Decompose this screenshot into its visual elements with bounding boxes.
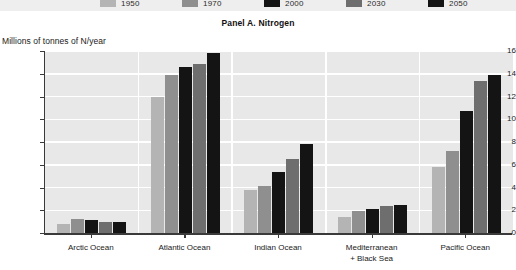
- bar-mediterranean-2050[interactable]: [394, 205, 407, 233]
- bar-group-bars: [326, 51, 420, 233]
- y-tick-label-4: 4: [478, 183, 516, 192]
- x-tick-1: [184, 233, 185, 238]
- legend-label-2050: 2050: [449, 0, 468, 8]
- legend-item-2050: 2050: [428, 0, 510, 8]
- y-tick-mark-16: [40, 51, 44, 52]
- y-tick-mark-12: [40, 97, 44, 98]
- bar-arctic-ocean-1950[interactable]: [57, 224, 70, 233]
- bar-indian-ocean-2050[interactable]: [300, 144, 313, 233]
- chart-legend: 1950 1970 2000 2030 2050: [0, 0, 516, 12]
- legend-item-2000: 2000: [264, 0, 346, 8]
- bar-pacific-ocean-1950[interactable]: [432, 167, 445, 233]
- legend-item-1950: 1950: [100, 0, 182, 8]
- legend-swatch-1950: [100, 0, 116, 7]
- y-tick-label-12: 12: [478, 92, 516, 101]
- y-tick-mark-8: [40, 142, 44, 143]
- bar-arctic-ocean-1970[interactable]: [71, 219, 84, 233]
- bar-mediterranean-2030[interactable]: [380, 206, 393, 233]
- bar-pacific-ocean-2000[interactable]: [460, 111, 473, 233]
- group-separator-1: [138, 51, 140, 233]
- x-tick-2: [278, 233, 279, 238]
- y-tick-label-14: 14: [478, 69, 516, 78]
- y-axis-caption: Millions of tonnes of N/year: [2, 36, 106, 46]
- y-tick-label-10: 10: [478, 114, 516, 123]
- y-tick-mark-14: [40, 74, 44, 75]
- bar-indian-ocean-1950[interactable]: [244, 190, 257, 233]
- y-tick-label-8: 8: [478, 137, 516, 146]
- x-axis-label-4: Pacific Ocean: [418, 242, 512, 253]
- legend-item-2030: 2030: [346, 0, 428, 8]
- bar-group-bars: [139, 51, 233, 233]
- legend-swatch-1970: [182, 0, 198, 7]
- legend-item-1970: 1970: [182, 0, 264, 8]
- y-tick-label-6: 6: [478, 160, 516, 169]
- group-separator-4: [419, 51, 421, 233]
- x-axis-label-0: Arctic Ocean: [44, 242, 138, 253]
- x-tick-4: [465, 233, 466, 238]
- legend-swatch-2000: [264, 0, 280, 7]
- legend-label-2000: 2000: [285, 0, 304, 8]
- group-separator-2: [231, 51, 233, 233]
- legend-label-1970: 1970: [203, 0, 222, 8]
- x-axis-label-3: Mediterranean + Black Sea: [325, 242, 419, 264]
- bar-arctic-ocean-2030[interactable]: [99, 222, 112, 233]
- group-separator-3: [325, 51, 327, 233]
- bar-group-2: [232, 51, 326, 233]
- chart-plot-wrapper: 0246810121416Arctic OceanAtlantic OceanI…: [0, 48, 516, 270]
- y-tick-label-0: 0: [478, 228, 516, 237]
- y-tick-mark-4: [40, 188, 44, 189]
- bar-atlantic-ocean-2030[interactable]: [193, 64, 206, 233]
- bar-group-1: [139, 51, 233, 233]
- legend-swatch-2030: [346, 0, 362, 7]
- y-tick-mark-2: [40, 210, 44, 211]
- bar-mediterranean-2000[interactable]: [366, 209, 379, 233]
- legend-swatch-2050: [428, 0, 444, 7]
- y-tick-mark-0: [40, 233, 44, 234]
- bar-group-bars: [232, 51, 326, 233]
- legend-label-2030: 2030: [367, 0, 386, 8]
- bar-atlantic-ocean-1950[interactable]: [151, 97, 164, 234]
- bar-group-bars: [45, 51, 139, 233]
- y-tick-label-2: 2: [478, 205, 516, 214]
- bar-pacific-ocean-1970[interactable]: [446, 151, 459, 233]
- bar-atlantic-ocean-2050[interactable]: [207, 53, 220, 233]
- panel-title: Panel A. Nitrogen: [0, 18, 516, 28]
- bar-arctic-ocean-2000[interactable]: [85, 220, 98, 233]
- x-tick-3: [372, 233, 373, 238]
- bar-mediterranean-1950[interactable]: [338, 217, 351, 233]
- bar-indian-ocean-2000[interactable]: [272, 172, 285, 233]
- bar-group-0: [45, 51, 139, 233]
- bar-indian-ocean-1970[interactable]: [258, 186, 271, 233]
- bar-indian-ocean-2030[interactable]: [286, 159, 299, 233]
- chart-plot-area: [44, 51, 513, 233]
- x-axis-label-1: Atlantic Ocean: [138, 242, 232, 253]
- y-tick-label-16: 16: [478, 46, 516, 55]
- legend-items-row: 1950 1970 2000 2030 2050: [0, 0, 516, 11]
- bar-arctic-ocean-2050[interactable]: [113, 222, 126, 233]
- x-axis-label-2: Indian Ocean: [231, 242, 325, 253]
- bar-group-3: [326, 51, 420, 233]
- bar-atlantic-ocean-1970[interactable]: [165, 75, 178, 233]
- bar-mediterranean-1970[interactable]: [352, 211, 365, 233]
- y-tick-mark-10: [40, 119, 44, 120]
- legend-label-1950: 1950: [121, 0, 140, 8]
- y-tick-mark-6: [40, 165, 44, 166]
- x-tick-0: [91, 233, 92, 238]
- bar-atlantic-ocean-2000[interactable]: [179, 67, 192, 233]
